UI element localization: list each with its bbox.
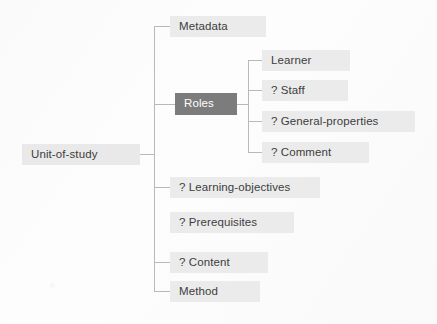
node-unit-of-study[interactable]: Unit-of-study [22,144,140,165]
node-label: Metadata [179,20,228,32]
node-label: ? General-properties [271,115,378,127]
node-label: ? Comment [271,146,331,158]
diagram-canvas: Unit-of-studyMetadataRoles? Learning-obj… [0,0,437,324]
node-label: ? Prerequisites [179,216,257,228]
node-learner[interactable]: Learner [262,50,350,71]
node-metadata[interactable]: Metadata [170,16,266,37]
node-label: Method [179,285,218,297]
node-content[interactable]: ? Content [170,252,268,273]
node-prerequisites[interactable]: ? Prerequisites [170,212,294,233]
node-learning-objectives[interactable]: ? Learning-objectives [170,177,320,198]
node-comment[interactable]: ? Comment [262,142,369,163]
node-method[interactable]: Method [170,281,260,302]
node-label: Roles [184,98,214,110]
node-label: ? Content [179,256,230,268]
node-label: Learner [271,54,311,66]
node-staff[interactable]: ? Staff [262,80,348,101]
node-general-properties[interactable]: ? General-properties [262,111,415,132]
node-label: ? Staff [271,84,305,96]
node-roles[interactable]: Roles [175,93,237,115]
node-label: Unit-of-study [31,148,98,160]
node-label: ? Learning-objectives [179,181,290,193]
